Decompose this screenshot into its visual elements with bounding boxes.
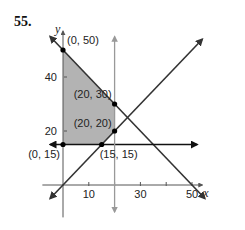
y-tick-label: 40 — [45, 71, 57, 83]
vertex-label: (0, 50) — [67, 34, 99, 46]
vertex-point — [60, 47, 65, 52]
vertex-point — [112, 128, 117, 133]
vertex-label: (15, 15) — [100, 148, 138, 160]
vertex-point — [99, 142, 104, 147]
vertex-label: (0, 15) — [28, 148, 60, 160]
x-tick-label: 10 — [83, 188, 95, 200]
x-tick-label: 30 — [134, 188, 146, 200]
vertex-point — [60, 142, 65, 147]
vertex-label: (20, 30) — [74, 88, 112, 100]
vertex-label: (20, 20) — [74, 117, 112, 129]
vertex-point — [112, 101, 117, 106]
y-tick-label: 20 — [45, 125, 57, 137]
feasible-region-graph: 1030502040xy(0, 50)(20, 30)(20, 20)(0, 1… — [0, 0, 245, 230]
y-axis-label: y — [54, 22, 61, 36]
